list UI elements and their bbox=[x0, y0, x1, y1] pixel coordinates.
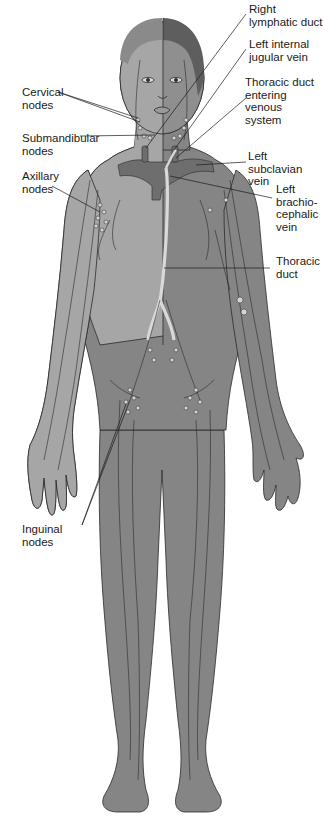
label-left-internal-jugular-vein: Left internal jugular vein bbox=[249, 38, 309, 63]
label-inguinal-nodes: Inguinal nodes bbox=[22, 523, 62, 548]
label-cervical-nodes: Cervical nodes bbox=[22, 86, 64, 111]
label-thoracic-duct-entering-venous-system: Thoracic duct entering venous system bbox=[245, 76, 324, 126]
label-submandibular-nodes: Submandibular nodes bbox=[22, 132, 99, 157]
label-thoracic-duct: Thoracic duct bbox=[276, 255, 320, 280]
label-left-subclavian-vein: Left subclavian vein bbox=[248, 150, 324, 188]
label-right-lymphatic-duct: Right lymphatic duct bbox=[249, 3, 323, 28]
label-axillary-nodes: Axillary nodes bbox=[22, 170, 59, 195]
label-left-brachiocephalic-vein: Left brachio- cephalic vein bbox=[276, 183, 318, 233]
